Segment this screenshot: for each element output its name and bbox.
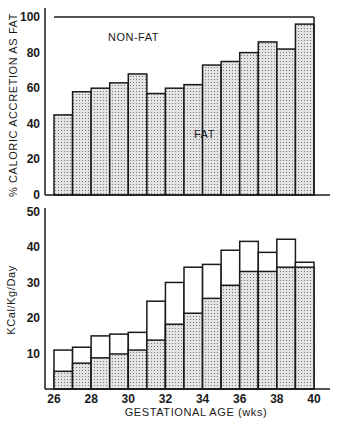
non-fat-label: NON-FAT: [108, 31, 159, 43]
top-y-tick-label: 20: [27, 152, 41, 166]
bottom-fat-bar: [128, 350, 147, 389]
bottom-fat-bar: [203, 298, 222, 389]
bottom-y-tick-label: 20: [27, 311, 41, 325]
top-fat-bar: [73, 92, 92, 195]
fat-label: FAT: [194, 128, 215, 140]
bottom-fat-bar: [54, 371, 73, 389]
top-fat-bar: [165, 88, 184, 195]
top-fat-bar: [258, 42, 277, 195]
bottom-fat-bar: [110, 354, 129, 389]
x-axis-title: GESTATIONAL AGE (wks): [125, 406, 268, 418]
bottom-chart-kcal: 1020304050 2628303234363840 KCal/Kg/Day …: [5, 205, 330, 418]
x-tick-label: 40: [307, 392, 321, 406]
top-bars: [54, 24, 314, 195]
bottom-fat-bar: [258, 271, 277, 389]
top-y-ticks: 020406080100: [20, 10, 40, 202]
bottom-fat-bar: [277, 267, 296, 389]
bottom-fat-bar: [73, 363, 92, 389]
x-tick-label: 28: [84, 392, 98, 406]
bottom-y-axis-title: KCal/Kg/Day: [5, 265, 17, 335]
top-y-tick-label: 40: [27, 117, 41, 131]
top-fat-bar: [240, 53, 259, 195]
top-fat-bar: [277, 49, 296, 195]
top-fat-bar: [110, 83, 129, 195]
bottom-fat-bar: [221, 285, 240, 389]
x-tick-label: 32: [159, 392, 173, 406]
top-chart-percent-fat: 020406080100 % CALORIC ACCRETION AS FAT …: [7, 8, 330, 202]
chart-canvas: 020406080100 % CALORIC ACCRETION AS FAT …: [0, 0, 337, 421]
bottom-y-tick-label: 50: [27, 205, 41, 219]
figure: 020406080100 % CALORIC ACCRETION AS FAT …: [0, 0, 337, 421]
bottom-y-tick-label: 10: [27, 347, 41, 361]
top-y-axis-title: % CALORIC ACCRETION AS FAT: [7, 13, 19, 197]
bottom-fat-bar: [240, 271, 259, 389]
top-fat-bar: [221, 62, 240, 196]
top-y-tick-label: 0: [33, 188, 40, 202]
top-y-tick-label: 100: [20, 10, 40, 24]
top-y-tick-label: 60: [27, 81, 41, 95]
x-tick-label: 26: [47, 392, 61, 406]
x-tick-label: 30: [122, 392, 136, 406]
bottom-fat-bar: [147, 340, 166, 389]
top-fat-bar: [91, 88, 110, 195]
bottom-x-ticks: 2628303234363840: [47, 392, 321, 406]
bottom-fat-bar: [295, 267, 314, 389]
top-fat-bar: [295, 24, 314, 195]
top-y-tick-label: 80: [27, 46, 41, 60]
bottom-fat-bar: [91, 358, 110, 389]
x-tick-label: 34: [196, 392, 210, 406]
bottom-fat-bar: [184, 313, 203, 389]
bottom-y-ticks: 1020304050: [27, 205, 41, 361]
x-tick-label: 38: [270, 392, 284, 406]
x-tick-label: 36: [233, 392, 247, 406]
bottom-y-tick-label: 40: [27, 240, 41, 254]
bottom-fat-bar: [165, 324, 184, 389]
top-fat-bar: [54, 115, 73, 195]
top-fat-bar: [128, 74, 147, 195]
bottom-y-tick-label: 30: [27, 276, 41, 290]
top-fat-bar: [147, 94, 166, 195]
bottom-bars: [54, 239, 314, 389]
